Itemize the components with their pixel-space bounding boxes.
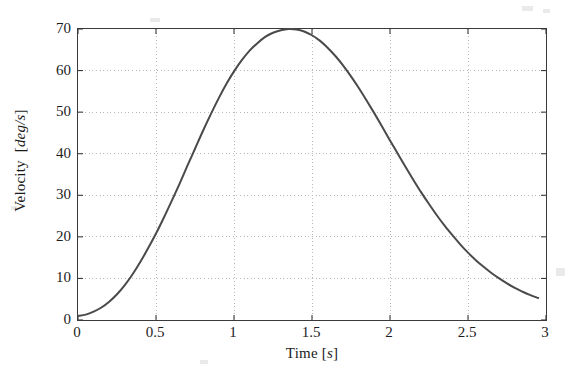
x-tick-label: 2 <box>385 325 393 340</box>
x-tick-label: 0.5 <box>146 325 165 340</box>
velocity-curve-layer <box>78 29 546 320</box>
y-tick-label: 50 <box>56 104 71 119</box>
plot-area <box>77 28 547 321</box>
y-tick-label: 60 <box>56 62 71 77</box>
x-tick-label: 0 <box>73 325 81 340</box>
y-tick-label: 30 <box>56 187 71 202</box>
x-tick-label: 1 <box>229 325 237 340</box>
y-tick-label: 70 <box>56 21 71 36</box>
x-axis-title-bracket-close: ] <box>333 345 338 361</box>
x-tick-label: 2.5 <box>458 325 477 340</box>
y-axis-title-unit: deg/s <box>12 114 28 147</box>
scan-fleck <box>556 268 565 276</box>
x-axis-title-name: Time <box>286 345 318 361</box>
y-axis-title: Velocity [deg/s] <box>12 109 29 212</box>
y-tick-label: 20 <box>56 228 71 243</box>
y-axis-title-container: Velocity [deg/s] <box>0 0 40 321</box>
y-tick-label: 0 <box>64 312 72 327</box>
y-axis-title-name: Velocity <box>12 160 28 212</box>
y-tick-label: 40 <box>56 145 71 160</box>
x-tick-label: 3 <box>541 325 549 340</box>
velocity-time-chart: Velocity [deg/s] Time [s] 01020304050607… <box>0 0 581 375</box>
y-axis-title-bracket-close: ] <box>12 109 28 114</box>
x-tick-label: 1.5 <box>302 325 321 340</box>
scan-fleck <box>543 9 550 13</box>
y-axis-title-bracket-open: [ <box>12 147 28 156</box>
velocity-curve <box>78 29 538 316</box>
scan-fleck <box>150 18 160 22</box>
y-tick-label: 10 <box>56 270 71 285</box>
scan-fleck <box>522 6 533 11</box>
x-axis-title: Time [s] <box>77 345 547 362</box>
x-axis-title-bracket-open: [ <box>318 345 327 361</box>
